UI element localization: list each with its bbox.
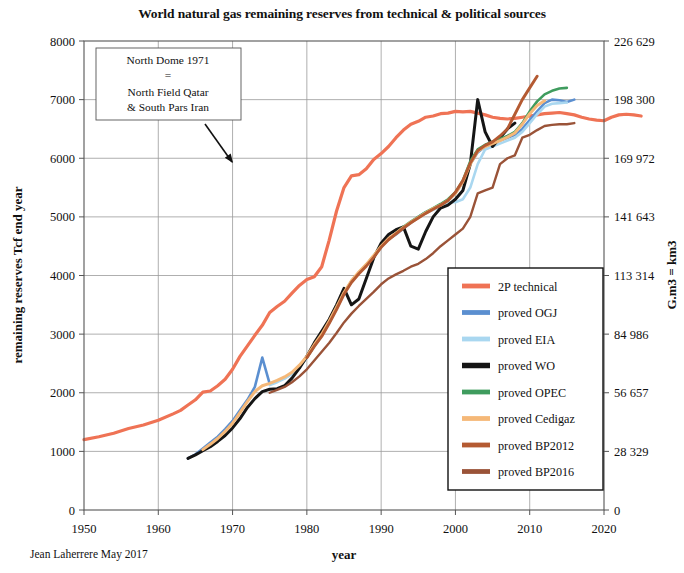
chart-legend: 2P technicalproved OGJproved EIAproved W… (448, 268, 603, 490)
y-axis-right-tick-label: 28 329 (614, 445, 648, 459)
x-axis-tick-label: 2020 (592, 522, 617, 536)
legend-label[interactable]: proved OPEC (498, 386, 566, 400)
svg-text:& South Pars Iran: & South Pars Iran (127, 101, 209, 113)
y-axis-left-title: remaining reserves Tcf end year (10, 186, 25, 363)
y-axis-left-tick-label: 8000 (50, 35, 75, 49)
y-axis-right-tick-label: 113 314 (614, 269, 655, 283)
svg-text:=: = (165, 69, 171, 81)
legend-label[interactable]: 2P technical (498, 280, 558, 294)
y-axis-left-tick-label: 3000 (50, 328, 75, 342)
x-axis-tick-label: 2010 (517, 522, 542, 536)
y-axis-right-tick-label: 56 657 (614, 386, 648, 400)
chart-canvas: 010002000300040005000600070008000 028 32… (0, 0, 684, 573)
x-axis-tick-label: 1990 (369, 522, 394, 536)
svg-text:North Field Qatar: North Field Qatar (128, 86, 209, 98)
y-axis-right-tick-label: 141 643 (614, 210, 655, 224)
x-axis-title: year (332, 547, 357, 562)
legend-label[interactable]: proved OGJ (498, 306, 557, 320)
y-axis-left-tick-label: 0 (69, 504, 75, 518)
y-axis-left-tick-label: 2000 (50, 386, 75, 400)
legend-label[interactable]: proved Cedigaz (498, 412, 575, 426)
y-axis-right-title: G.m3 = km3 (664, 240, 679, 310)
y-axis-right-tick-label: 0 (614, 504, 620, 518)
annotation-arrow-head (225, 154, 233, 163)
y-axis-left-tick-label: 5000 (50, 210, 75, 224)
north-dome-annotation: North Dome 1971 = North Field Qatar & So… (96, 48, 241, 163)
legend-label[interactable]: proved EIA (498, 333, 555, 347)
y-axis-right-tick-label: 84 986 (614, 328, 648, 342)
x-axis-tick-label: 2000 (443, 522, 468, 536)
y-axis-left-tick-label: 6000 (50, 152, 75, 166)
x-axis-tick-label: 1950 (72, 522, 97, 536)
x-axis-tick-label: 1970 (220, 522, 245, 536)
x-axis-tick-label: 1960 (146, 522, 171, 536)
y-axis-right-tick-label: 169 972 (614, 152, 655, 166)
credit-line: Jean Laherrere May 2017 (30, 548, 148, 561)
x-axis-tick-label: 1980 (294, 522, 319, 536)
y-axis-left-tick-label: 7000 (50, 93, 75, 107)
svg-text:North Dome 1971: North Dome 1971 (127, 54, 210, 66)
y-axis-right-ticks: 028 32956 65784 986113 314141 643169 972… (614, 35, 655, 518)
y-axis-left-ticks: 010002000300040005000600070008000 (50, 35, 75, 518)
y-axis-right-tick-label: 198 300 (614, 93, 655, 107)
y-axis-left-tick-label: 1000 (50, 445, 75, 459)
y-axis-right-tick-label: 226 629 (614, 35, 655, 49)
legend-label[interactable]: proved BP2016 (498, 465, 574, 479)
y-axis-left-tick-label: 4000 (50, 269, 75, 283)
legend-label[interactable]: proved WO (498, 359, 555, 373)
x-axis-ticks: 19501960197019801990200020102020 (72, 522, 617, 536)
legend-box (448, 268, 603, 490)
legend-label[interactable]: proved BP2012 (498, 439, 574, 453)
